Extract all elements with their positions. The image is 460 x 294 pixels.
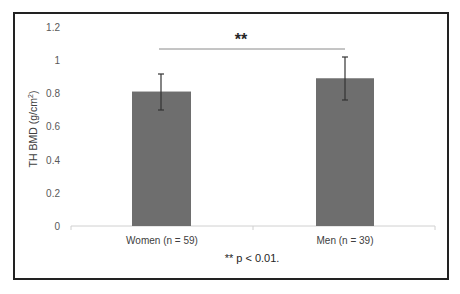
- x-category-label-women: Women (n = 59): [126, 235, 198, 246]
- y-tick: 0.6: [46, 121, 60, 132]
- y-tick: 1.2: [46, 22, 60, 33]
- x-category-label-men: Men (n = 39): [317, 235, 374, 246]
- significance-marker: **: [235, 31, 248, 48]
- y-axis-ticks: 0 0.2 0.4 0.6 0.8 1 1.2: [46, 22, 60, 232]
- y-tick: 0: [54, 221, 60, 232]
- y-tick: 0.8: [46, 88, 60, 99]
- y-axis-label: TH BMD (g/cm2): [27, 91, 39, 168]
- y-tick: 0.2: [46, 188, 60, 199]
- bar-chart: TH BMD (g/cm2) 0 0.2 0.4 0.6 0.8 1 1.2 *…: [0, 0, 460, 294]
- y-tick: 0.4: [46, 155, 60, 166]
- y-tick: 1: [54, 55, 60, 66]
- footnote: ** p < 0.01.: [225, 252, 280, 264]
- bar-women: [132, 92, 191, 226]
